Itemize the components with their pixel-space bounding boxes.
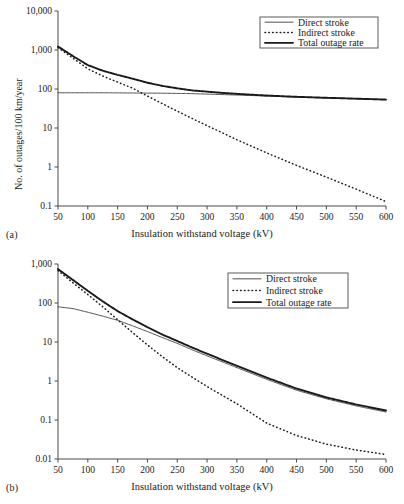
y-tick-label: 10 — [43, 123, 53, 133]
x-tick-label: 300 — [200, 212, 215, 222]
y-tick-label: 0.01 — [35, 454, 52, 464]
x-tick-label: 600 — [379, 212, 394, 222]
panel-label-b: (b) — [6, 482, 18, 493]
legend-label: Total outage rate — [266, 297, 332, 308]
x-tick-label: 100 — [81, 212, 96, 222]
x-tick-label: 150 — [111, 212, 126, 222]
y-tick-label: 1,000 — [31, 259, 53, 269]
x-tick-label: 450 — [289, 465, 304, 475]
x-tick-label: 150 — [111, 465, 126, 475]
y-tick-label: 100 — [38, 298, 53, 308]
legend-label: Direct stroke — [266, 273, 318, 284]
legend-label: Indirect stroke — [266, 285, 324, 296]
x-tick-label: 200 — [140, 212, 155, 222]
x-axis-title-a: Insulation withstand voltage (kV) — [0, 228, 404, 239]
y-tick-label: 1,000 — [31, 45, 53, 55]
x-tick-label: 400 — [260, 465, 275, 475]
legend-label: Total outage rate — [298, 37, 364, 48]
y-tick-label: 1 — [47, 162, 52, 172]
x-tick-label: 500 — [319, 212, 334, 222]
x-tick-label: 300 — [200, 465, 215, 475]
x-tick-label: 250 — [170, 212, 185, 222]
y-tick-label: 100 — [38, 84, 53, 94]
chart-svg-a: 0.11101001,00010,00050100150200250300350… — [0, 0, 404, 250]
x-tick-label: 600 — [379, 465, 394, 475]
panel-label-a: (a) — [6, 229, 18, 240]
x-tick-label: 550 — [349, 212, 364, 222]
x-tick-label: 500 — [319, 465, 334, 475]
series-line-total-outage-rate — [58, 46, 386, 99]
x-tick-label: 100 — [81, 465, 96, 475]
x-tick-label: 350 — [230, 465, 245, 475]
y-tick-label: 0.1 — [40, 201, 52, 211]
x-tick-label: 400 — [260, 212, 275, 222]
x-tick-label: 250 — [170, 465, 185, 475]
plot-area-a: 0.11101001,00010,00050100150200250300350… — [0, 0, 404, 250]
x-axis-title-b: Insulation withstand voltage (kV) — [0, 481, 404, 492]
y-tick-label: 10,000 — [26, 6, 52, 16]
series-line-indirect-stroke — [58, 48, 386, 202]
x-tick-label: 350 — [230, 212, 245, 222]
y-axis-title-a: No. of outages/100 km/year — [13, 78, 24, 190]
x-tick-label: 50 — [53, 465, 63, 475]
figure-panel-b: 0.010.11101001,0005010015020025030035040… — [0, 250, 404, 504]
x-tick-label: 200 — [140, 465, 155, 475]
x-tick-label: 50 — [53, 212, 63, 222]
plot-area-b: 0.010.11101001,0005010015020025030035040… — [0, 250, 404, 504]
x-tick-label: 550 — [349, 465, 364, 475]
y-tick-label: 10 — [43, 337, 53, 347]
y-tick-label: 0.1 — [40, 415, 52, 425]
chart-svg-b: 0.010.11101001,0005010015020025030035040… — [0, 250, 404, 504]
figure-panel-a: 0.11101001,00010,00050100150200250300350… — [0, 0, 404, 250]
y-tick-label: 1 — [47, 376, 52, 386]
x-tick-label: 450 — [289, 212, 304, 222]
